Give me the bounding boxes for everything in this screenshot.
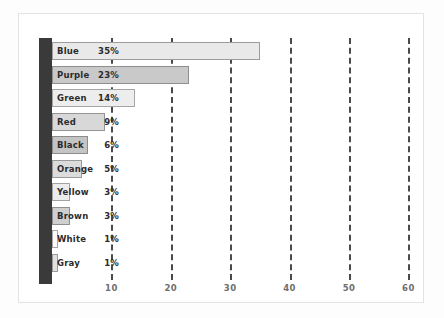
bar-row[interactable]: Purple23% [52, 66, 420, 84]
bar-value-label: 3% [104, 207, 119, 225]
bar-red[interactable] [52, 113, 105, 131]
plot-area: 102030405060 Blue35%Purple23%Green14%Red… [0, 0, 444, 318]
bar-black[interactable] [52, 136, 88, 154]
x-tick-label: 10 [105, 283, 118, 293]
bar-chart-figure: 102030405060 Blue35%Purple23%Green14%Red… [0, 0, 444, 318]
bar-row[interactable]: Red9% [52, 113, 420, 131]
y-axis-spine [39, 38, 52, 284]
bar-purple[interactable] [52, 66, 189, 84]
bar-blue[interactable] [52, 42, 260, 60]
x-tick-label: 50 [343, 283, 356, 293]
bar-value-label: 3% [104, 183, 119, 201]
bar-value-label: 5% [104, 160, 119, 178]
bar-green[interactable] [52, 89, 135, 107]
bar-label: Gray1% [57, 254, 119, 272]
x-tick-label: 60 [402, 283, 415, 293]
bar-gray[interactable] [52, 254, 58, 272]
bar-row[interactable]: Green14% [52, 89, 420, 107]
bar-label: White1% [57, 230, 119, 248]
bar-category-name: White [57, 230, 98, 248]
bar-value-label: 1% [104, 230, 119, 248]
bar-row[interactable]: Blue35% [52, 42, 420, 60]
bar-brown[interactable] [52, 207, 70, 225]
bar-row[interactable]: White1% [52, 230, 420, 248]
x-tick-label: 20 [164, 283, 177, 293]
bar-orange[interactable] [52, 160, 82, 178]
x-tick-label: 40 [283, 283, 296, 293]
bar-row[interactable]: Gray1% [52, 254, 420, 272]
bar-yellow[interactable] [52, 183, 70, 201]
bar-row[interactable]: Yellow3% [52, 183, 420, 201]
x-tick-label: 30 [224, 283, 237, 293]
bar-row[interactable]: Orange5% [52, 160, 420, 178]
bar-value-label: 1% [104, 254, 119, 272]
bar-row[interactable]: Black6% [52, 136, 420, 154]
bar-value-label: 6% [104, 136, 119, 154]
bar-category-name: Gray [57, 254, 98, 272]
bar-row[interactable]: Brown3% [52, 207, 420, 225]
bar-white[interactable] [52, 230, 58, 248]
bar-value-label: 9% [104, 113, 119, 131]
